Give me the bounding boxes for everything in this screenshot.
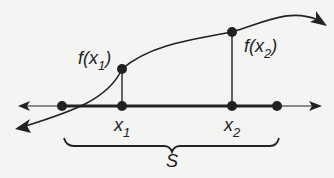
point-f-x1 xyxy=(117,64,127,74)
set-brace xyxy=(64,138,279,152)
label-f-x1: f(x1) xyxy=(78,48,111,73)
left-endpoint xyxy=(57,101,67,111)
point-x1 xyxy=(117,101,127,111)
right-endpoint xyxy=(272,101,282,111)
function-diagram: f(x1) f(x2) x1 x2 S xyxy=(0,0,334,178)
label-set-s: S xyxy=(166,151,178,171)
label-f-x2: f(x2) xyxy=(244,36,277,61)
label-x1: x1 xyxy=(113,115,130,140)
label-x2: x2 xyxy=(223,115,241,140)
point-f-x2 xyxy=(227,27,237,37)
point-x2 xyxy=(227,101,237,111)
function-curve xyxy=(15,11,327,133)
diagram-canvas: f(x1) f(x2) x1 x2 S xyxy=(0,0,334,178)
